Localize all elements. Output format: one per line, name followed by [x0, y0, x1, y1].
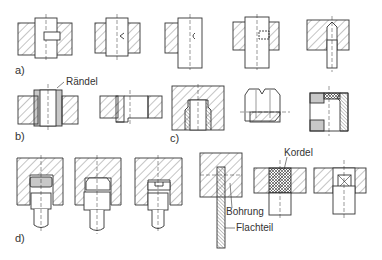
drawing-c2	[240, 89, 290, 122]
drawing-d1	[17, 155, 63, 232]
section-label-c: c)	[170, 133, 179, 144]
drawing-a3	[165, 14, 202, 70]
drawing-c3	[310, 86, 348, 136]
annotation-bohrung: Bohrung	[226, 207, 264, 217]
drawing-a5	[307, 16, 349, 72]
section-label-b: b)	[15, 131, 25, 142]
drawing-a2	[95, 14, 140, 60]
annotation-flachteil: Flachteil	[236, 223, 273, 233]
annotation-kordel: Kordel	[284, 148, 313, 158]
drawing-d2	[75, 155, 121, 234]
drawing-b1	[18, 84, 78, 130]
annotation-raendel: Rändel	[66, 77, 98, 87]
technical-drawing-figure: a) b) c) d) Rändel Kordel Bohrung Flacht…	[0, 0, 382, 260]
drawing-a1	[18, 14, 72, 62]
drawing-canvas	[0, 0, 382, 260]
drawing-d3	[135, 155, 182, 232]
drawing-c1	[172, 84, 224, 132]
drawing-a4	[233, 14, 279, 70]
drawing-d4	[200, 153, 242, 248]
section-label-a: a)	[15, 65, 25, 76]
section-label-d: d)	[15, 233, 25, 244]
drawing-d6	[314, 160, 366, 220]
drawing-b2	[100, 90, 162, 126]
